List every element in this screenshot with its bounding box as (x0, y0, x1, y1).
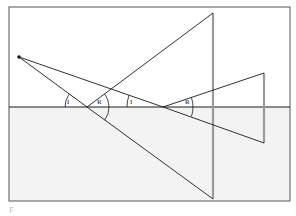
angle-label-reflected-2: R (185, 98, 190, 106)
reflected-ray-1 (87, 13, 213, 107)
lower-region (9, 107, 290, 201)
angle-label-incident-1: I (67, 98, 70, 106)
incident-ray-2 (19, 57, 163, 107)
incident-ray-1 (19, 57, 87, 107)
angle-label-incident-2: I (130, 98, 133, 106)
figure-caption: F (9, 206, 291, 216)
reflection-diagram: I R I R (0, 0, 296, 216)
source-point (17, 55, 21, 59)
angle-arc-incident-2 (127, 95, 129, 107)
angle-label-reflected-1: R (97, 98, 102, 106)
